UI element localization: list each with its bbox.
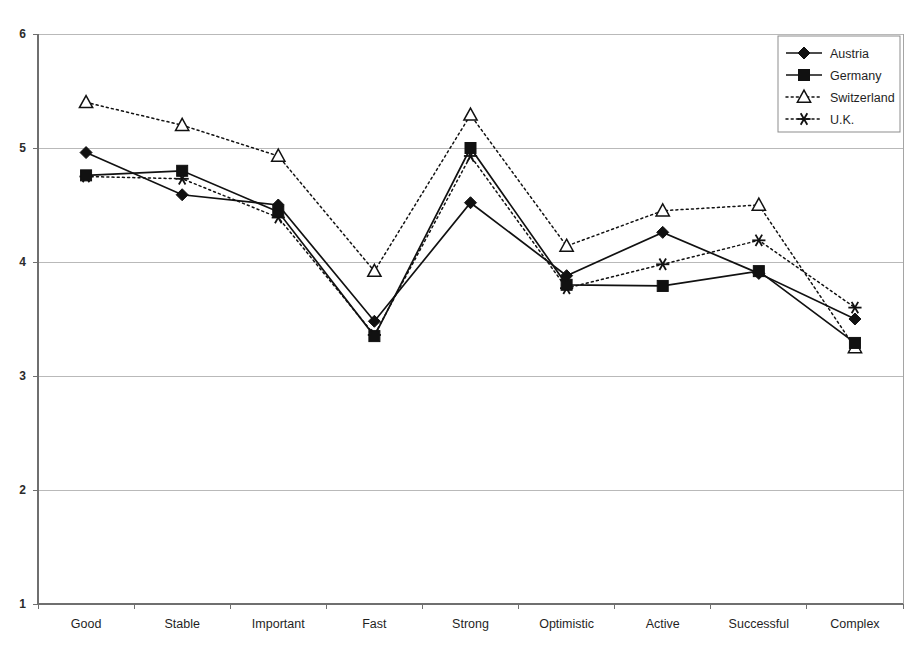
- x-axis-tick-labels: GoodStableImportantFastStrongOptimisticA…: [71, 617, 881, 631]
- x-tick-label-active: Active: [646, 617, 680, 631]
- x-tick-label-fast: Fast: [362, 617, 387, 631]
- y-tick-label: 2: [19, 483, 26, 497]
- x-tick-label-complex: Complex: [830, 617, 880, 631]
- datapoint-germany-6: [657, 280, 668, 291]
- chart-container: 123456 GoodStableImportantFastStrongOpti…: [0, 0, 916, 646]
- y-tick-label: 1: [19, 597, 26, 611]
- y-tick-label: 4: [19, 255, 26, 269]
- x-tick-label-strong: Strong: [452, 617, 489, 631]
- x-tick-label-good: Good: [71, 617, 102, 631]
- chart-legend: AustriaGermanySwitzerlandU.K.: [778, 36, 900, 132]
- y-tick-label: 3: [19, 369, 26, 383]
- legend-label-germany: Germany: [830, 69, 882, 83]
- datapoint-germany-1: [177, 165, 188, 176]
- line-chart: 123456 GoodStableImportantFastStrongOpti…: [0, 0, 916, 646]
- datapoint-germany-0: [81, 170, 92, 181]
- x-tick-label-successful: Successful: [729, 617, 789, 631]
- datapoint-germany-8: [849, 337, 860, 348]
- x-tick-label-important: Important: [252, 617, 305, 631]
- legend-label-switzerland: Switzerland: [830, 91, 895, 105]
- y-tick-label: 6: [19, 27, 26, 41]
- x-tick-label-stable: Stable: [164, 617, 199, 631]
- legend-marker-germany: [799, 70, 810, 81]
- y-tick-label: 5: [19, 141, 26, 155]
- datapoint-germany-4: [465, 143, 476, 154]
- legend-label-austria: Austria: [830, 47, 869, 61]
- x-tick-label-optimistic: Optimistic: [539, 617, 594, 631]
- legend-label-u-k: U.K.: [830, 113, 854, 127]
- datapoint-germany-3: [369, 331, 380, 342]
